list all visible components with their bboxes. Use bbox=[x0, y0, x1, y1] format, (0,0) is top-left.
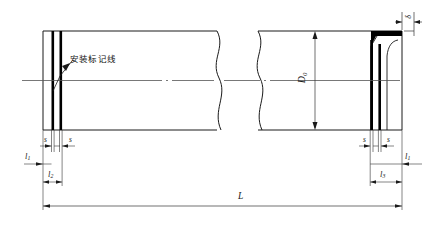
dim-arrow-l3-right-a bbox=[370, 180, 376, 183]
dim-arrow-s-right-a bbox=[364, 144, 370, 147]
diameter-label: D0 bbox=[297, 73, 308, 84]
annotation-leader bbox=[53, 61, 72, 91]
dim-arrow-l2-left-a bbox=[43, 180, 49, 183]
dim-arrow-s-left-b bbox=[62, 144, 68, 147]
marking-width-right-b-label: s bbox=[387, 136, 390, 144]
span-right-label-sub: 3 bbox=[382, 173, 385, 179]
dim-arrow-diameter-bottom bbox=[313, 122, 318, 130]
dimension-l1-left bbox=[24, 130, 52, 170]
dim-arrow-L-right bbox=[395, 204, 402, 208]
offset-left-label: l1 bbox=[25, 152, 30, 162]
dimension-overall-length bbox=[43, 186, 402, 210]
break-line-left bbox=[216, 31, 222, 130]
span-right-label: l3 bbox=[380, 170, 385, 180]
offset-left-label-sub: 1 bbox=[27, 155, 30, 161]
installation-marking-lines-right bbox=[370, 40, 381, 130]
marking-width-left-a-label: s bbox=[44, 136, 47, 144]
marking-width-left-b-label: s bbox=[69, 136, 72, 144]
dimension-l1-right bbox=[370, 130, 422, 170]
dim-arrow-l1-left bbox=[36, 162, 43, 165]
pipe-dimension-drawing bbox=[0, 0, 447, 234]
span-left-label: l2 bbox=[48, 170, 53, 180]
dimension-l2-left bbox=[43, 152, 62, 186]
installation-marking-line-annotation: 安装标记线 bbox=[70, 52, 116, 64]
bore-inner-edge bbox=[387, 40, 398, 130]
dim-arrow-delta-left bbox=[396, 20, 402, 24]
dim-arrow-s-right-b bbox=[381, 144, 387, 147]
offset-right-label-sub: 1 bbox=[407, 155, 410, 161]
offset-right-label: l1 bbox=[405, 152, 410, 162]
marking-width-right-a-label: s bbox=[363, 136, 366, 144]
diameter-label-text: D bbox=[296, 76, 307, 83]
wall-thickness-label: δ bbox=[405, 15, 413, 19]
dim-arrow-diameter-top bbox=[313, 31, 318, 39]
dimension-l3-right bbox=[370, 170, 402, 186]
dim-arrow-s-left-a bbox=[45, 144, 52, 147]
span-left-label-sub: 2 bbox=[50, 173, 53, 179]
diameter-label-sub: 0 bbox=[301, 73, 308, 76]
overall-length-label: L bbox=[238, 192, 243, 202]
dim-arrow-delta-right bbox=[414, 20, 420, 24]
dim-arrow-l1-right bbox=[402, 162, 409, 165]
marking-line-right-b bbox=[378, 44, 381, 130]
dim-arrow-l2-left-b bbox=[56, 180, 62, 183]
leader-arrow-upper bbox=[62, 63, 70, 71]
dim-arrow-l3-right-b bbox=[396, 180, 402, 183]
dim-arrow-L-left bbox=[43, 204, 50, 208]
